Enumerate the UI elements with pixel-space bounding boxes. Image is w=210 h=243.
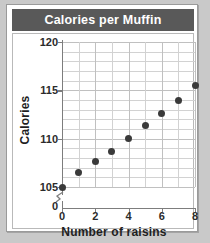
y-tick-label: 105 [31,182,58,193]
gridline-vertical [178,42,179,187]
x-tick-mark [62,208,63,212]
y-axis-line [62,40,63,195]
data-point [142,122,149,129]
y-axis-label: Calories [18,80,32,160]
data-point [59,184,66,191]
page-title: Calories per Muffin [44,13,161,27]
gridline-vertical [79,42,80,187]
gridline-vertical [112,42,113,187]
x-tick-label: 6 [152,211,172,222]
x-tick-mark [162,208,163,212]
x-tick-mark [129,208,130,212]
y-tick-mark [58,42,62,43]
y-tick-label: 120 [31,37,58,48]
gridline-vertical [129,42,130,187]
y-tick-mark [58,90,62,91]
y-tick-label: 115 [31,85,58,96]
data-point [175,97,182,104]
y-tick-mark [58,139,62,140]
gridline-horizontal [62,187,195,188]
gridline-vertical [95,42,96,187]
x-tick-label: 8 [185,211,205,222]
gridline-vertical [195,42,196,187]
y-tick-label: 110 [31,134,58,145]
x-tick-label: 4 [119,211,139,222]
x-tick-label: 0 [52,211,72,222]
chart-card: Calories per Muffin 1051101151200 02468 … [6,4,198,232]
x-tick-mark [95,208,96,212]
chart-title-bar: Calories per Muffin [12,9,194,31]
chart-gridlines [62,42,195,187]
x-tick-mark [195,208,196,212]
data-point [192,82,199,89]
gridline-vertical [145,42,146,187]
x-tick-label: 2 [85,211,105,222]
x-axis-label: Number of raisins [29,225,199,239]
